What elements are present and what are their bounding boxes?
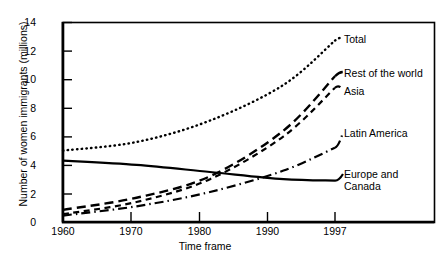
series-line-rest-of-the-world bbox=[63, 76, 335, 210]
y-tick-label-6: 6 bbox=[14, 131, 36, 141]
y-tick-label-0: 0 bbox=[14, 217, 36, 227]
y-tick-label-2: 2 bbox=[14, 189, 36, 199]
x-tick-label-1997: 1997 bbox=[313, 226, 357, 237]
series-label-rest-of-the-world: Rest of the world bbox=[344, 67, 423, 79]
x-tick-marks bbox=[63, 212, 335, 222]
x-tick-label-1990: 1990 bbox=[246, 226, 290, 237]
series-label-total: Total bbox=[344, 33, 366, 45]
x-tick-label-1980: 1980 bbox=[178, 226, 222, 237]
series-line-total bbox=[63, 41, 335, 151]
x-tick-label-1970: 1970 bbox=[109, 226, 153, 237]
y-tick-label-10: 10 bbox=[14, 74, 36, 84]
y-tick-marks bbox=[63, 23, 72, 223]
y-tick-label-4: 4 bbox=[14, 160, 36, 170]
series-line-europe-and-canada bbox=[63, 161, 335, 181]
label-leader-lines bbox=[335, 38, 343, 181]
x-tick-label-1960: 1960 bbox=[41, 226, 85, 237]
x-axis-label: Time frame bbox=[150, 240, 260, 252]
series-label-latin-america: Latin America bbox=[344, 127, 408, 139]
series-label-europe-and-canada: Europe and Canada bbox=[344, 168, 398, 192]
series-paths bbox=[63, 41, 335, 216]
y-tick-label-12: 12 bbox=[14, 46, 36, 56]
plot-frame bbox=[63, 23, 435, 223]
y-tick-label-8: 8 bbox=[14, 103, 36, 113]
chart-figure: Number of women immigrants (millions) Ti… bbox=[0, 0, 446, 264]
y-tick-label-14: 14 bbox=[14, 17, 36, 27]
series-label-asia: Asia bbox=[344, 85, 364, 97]
y-axis-label: Number of women immigrants (millions) bbox=[17, 9, 29, 219]
series-line-latin-america bbox=[63, 148, 335, 216]
